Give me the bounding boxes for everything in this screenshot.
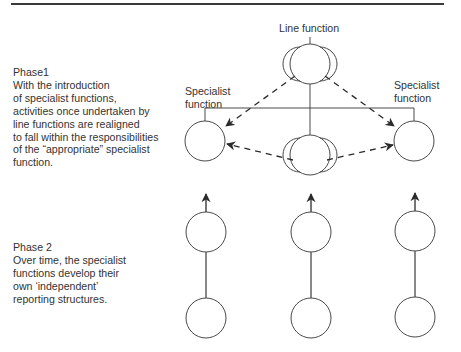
specialist-node-right bbox=[394, 121, 434, 161]
phase2-column-right bbox=[395, 193, 435, 337]
dashed-arrow bbox=[226, 76, 295, 126]
line-function-node-top bbox=[283, 44, 337, 84]
dashed-arrow bbox=[325, 76, 394, 126]
specialist-node-left bbox=[185, 121, 225, 161]
org-diagram bbox=[0, 0, 461, 352]
line-function-node-middle bbox=[283, 135, 337, 175]
phase2-column-middle bbox=[291, 194, 331, 338]
phase2-column-left bbox=[186, 194, 226, 338]
